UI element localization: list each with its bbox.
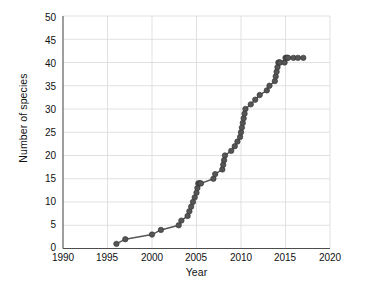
data-point [257,92,262,97]
y-tick-label-45: 45 [24,36,56,46]
chart-figure: Number of species Year 50 45 40 35 30 25… [0,0,366,294]
data-point [295,55,300,60]
y-tick-label-25: 25 [24,128,56,138]
data-point [301,55,306,60]
y-tick-label-35: 35 [24,82,56,92]
gridlines [63,16,330,249]
data-point [253,97,258,102]
x-tick-label-2010: 2010 [218,253,264,263]
x-tick-label-1990: 1990 [40,253,86,263]
y-tick-label-50: 50 [24,13,56,23]
data-point [198,181,203,186]
data-point [123,237,128,242]
data-point [158,227,163,232]
data-point [179,218,184,223]
x-tick-label-1995: 1995 [84,253,130,263]
x-tick-label-2000: 2000 [129,253,175,263]
data-point [243,106,248,111]
data-point [212,171,217,176]
x-tick-label-2015: 2015 [262,253,308,263]
series-markers [114,55,306,246]
data-point [267,83,272,88]
data-point [114,241,119,246]
data-point [248,102,253,107]
data-point [222,153,227,158]
data-point [149,232,154,237]
y-tick-label-30: 30 [24,105,56,115]
data-point [285,55,290,60]
y-tick-label-5: 5 [24,220,56,230]
x-tick-label-2020: 2020 [307,253,353,263]
data-point [229,148,234,153]
y-tick-label-20: 20 [24,151,56,161]
y-tick-label-40: 40 [24,59,56,69]
x-tick-label-2005: 2005 [173,253,219,263]
x-axis-label: Year [63,266,330,278]
y-tick-label-15: 15 [24,174,56,184]
y-tick-label-10: 10 [24,197,56,207]
